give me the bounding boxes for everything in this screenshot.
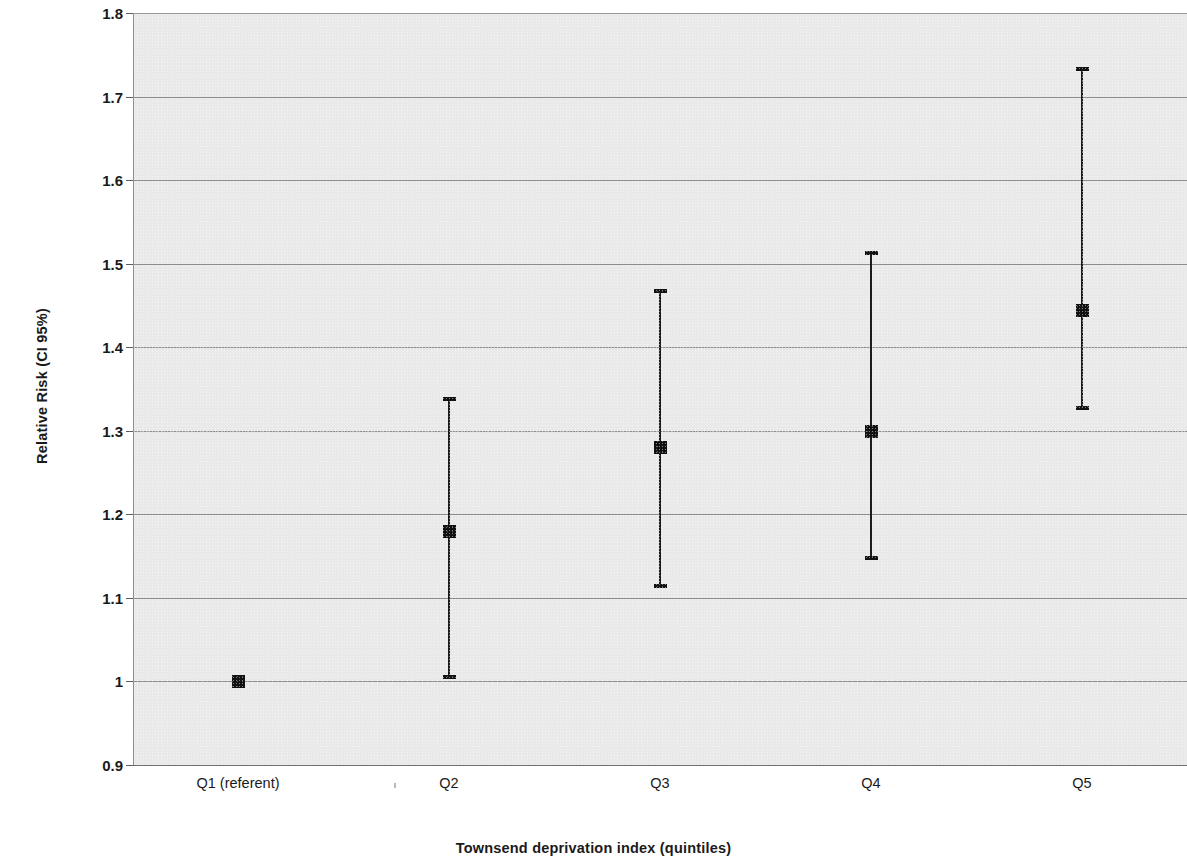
x-tick-label: Q5 <box>1072 775 1091 791</box>
confidence-interval-line <box>659 289 661 588</box>
y-tick-mark <box>126 97 133 98</box>
y-tick-mark <box>126 765 133 766</box>
x-tick-label: Q1 (referent) <box>197 775 280 791</box>
y-tick-mark <box>126 264 133 265</box>
y-tick-mark <box>126 514 133 515</box>
scan-artifact-speck <box>394 783 396 788</box>
y-tick-label: 0.9 <box>102 758 123 773</box>
plot-top-border <box>133 13 1187 14</box>
data-point-marker <box>865 425 878 438</box>
data-point-marker <box>443 525 456 538</box>
y-tick-label: 1.6 <box>102 173 123 188</box>
confidence-interval-cap-upper <box>1076 67 1089 71</box>
confidence-interval-cap-lower <box>654 584 667 588</box>
confidence-interval-cap-upper <box>865 251 878 255</box>
relative-risk-error-bar-chart: Relative Risk (CI 95%) 0.911.11.21.31.41… <box>0 0 1187 867</box>
y-tick-mark <box>126 598 133 599</box>
y-tick-label: 1 <box>115 674 123 689</box>
confidence-interval-cap-upper <box>654 289 667 293</box>
plot-area <box>133 13 1187 765</box>
y-axis-title: Relative Risk (CI 95%) <box>34 266 50 506</box>
y-tick-label: 1.7 <box>102 90 123 105</box>
confidence-interval-cap-upper <box>443 397 456 401</box>
data-point-marker <box>654 441 667 454</box>
y-tick-label: 1.4 <box>102 340 123 355</box>
y-tick-mark <box>126 431 133 432</box>
gridline <box>133 681 1187 682</box>
x-tick-label: Q4 <box>861 775 880 791</box>
confidence-interval-cap-lower <box>1076 406 1089 410</box>
y-tick-label: 1.5 <box>102 257 123 272</box>
y-tick-mark <box>126 681 133 682</box>
confidence-interval-cap-lower <box>443 675 456 679</box>
confidence-interval-line <box>870 251 872 560</box>
gridline <box>133 598 1187 599</box>
y-tick-label: 1.2 <box>102 507 123 522</box>
x-axis-line <box>133 765 1187 766</box>
confidence-interval-line <box>448 397 450 679</box>
y-tick-mark <box>126 180 133 181</box>
y-tick-mark <box>126 13 133 14</box>
x-axis-title: Townsend deprivation index (quintiles) <box>0 840 1187 856</box>
data-point-marker <box>232 675 245 688</box>
gridline <box>133 97 1187 98</box>
y-tick-label: 1.1 <box>102 591 123 606</box>
data-point-marker <box>1076 304 1089 317</box>
y-axis-line <box>133 13 134 766</box>
confidence-interval-line <box>1081 67 1083 410</box>
confidence-interval-cap-lower <box>865 556 878 560</box>
x-tick-label: Q2 <box>439 775 458 791</box>
x-tick-label: Q3 <box>650 775 669 791</box>
gridline <box>133 264 1187 265</box>
y-tick-label: 1.8 <box>102 6 123 21</box>
gridline <box>133 180 1187 181</box>
y-tick-mark <box>126 347 133 348</box>
y-tick-label: 1.3 <box>102 424 123 439</box>
